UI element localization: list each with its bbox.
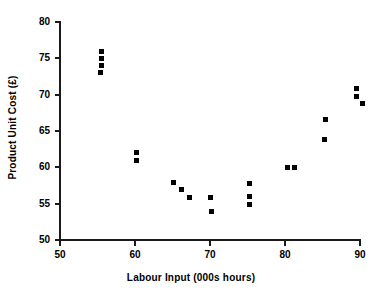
data-point-marker [247,181,252,186]
y-tick-label: 75 [24,53,50,63]
y-tick-label: 80 [24,17,50,27]
data-point-marker [99,49,104,54]
data-point-marker [247,202,252,207]
x-tick-label: 70 [195,250,225,260]
x-tick-label: 80 [270,250,300,260]
data-point-marker [179,187,184,192]
data-point-marker [354,94,359,99]
x-tick-label: 60 [120,250,150,260]
data-point-marker [323,117,328,122]
x-tick-mark [134,241,136,246]
data-point-marker [322,137,327,142]
data-point-marker [360,101,365,106]
x-axis-title: Labour Input (000s hours) [0,272,382,283]
data-point-marker [208,195,213,200]
x-tick-mark [209,241,211,246]
data-point-marker [98,70,103,75]
x-tick-mark [359,241,361,246]
plot-area [60,22,360,240]
x-tick-label: 90 [345,250,375,260]
x-tick-label: 50 [45,250,75,260]
data-point-marker [134,158,139,163]
x-tick-mark [284,241,286,246]
y-tick-label: 50 [24,235,50,245]
data-point-marker [134,150,139,155]
data-point-marker [247,194,252,199]
data-point-marker [354,86,359,91]
data-point-marker [209,209,214,214]
x-tick-mark [59,241,61,246]
data-point-marker [99,63,104,68]
scatter-chart: 50556065707580 5060708090 Product Unit C… [0,0,382,299]
y-tick-label: 55 [24,199,50,209]
y-tick-label: 65 [24,126,50,136]
data-point-marker [292,165,297,170]
data-point-marker [285,165,290,170]
data-point-marker [99,56,104,61]
y-axis-title: Product Unit Cost (£) [7,53,18,203]
y-tick-label: 60 [24,162,50,172]
data-point-marker [171,180,176,185]
data-point-marker [187,195,192,200]
y-tick-label: 70 [24,90,50,100]
